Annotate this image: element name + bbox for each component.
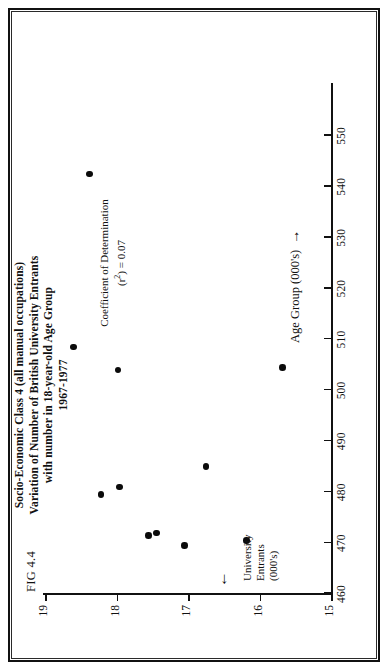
x-tick-label: 550 [335, 116, 347, 156]
x-tick-label: 510 [335, 320, 347, 360]
title-line-4: 1967-1977 [57, 175, 72, 595]
x-tick [324, 134, 331, 136]
y-axis-line [43, 593, 333, 595]
y-tick-label: 19 [37, 605, 49, 629]
y-axis-label: University Entrants (000's) [241, 535, 280, 581]
x-tick-label: 500 [335, 370, 347, 410]
y-axis-arrow-icon: ← [215, 571, 229, 587]
y-tick [45, 594, 47, 601]
scatter-point [86, 171, 93, 178]
scatter-point [145, 532, 152, 539]
x-tick-label: 480 [335, 472, 347, 512]
y-tick-label: 15 [323, 605, 335, 629]
x-tick-label: 490 [335, 421, 347, 461]
y-tick [260, 594, 262, 601]
figure-title: Socio-Economic Class 4 (all manual occup… [13, 175, 71, 595]
y-tick [331, 594, 333, 601]
scatter-point [115, 367, 122, 374]
y-tick [188, 594, 190, 601]
coefficient-annotation-line-1: Coefficient of Determination [97, 153, 111, 373]
y-tick [117, 594, 119, 601]
scanned-figure-page: Socio-Economic Class 4 (all manual occup… [0, 0, 390, 672]
scatter-point [98, 492, 105, 499]
x-axis-label: Age Group (000's)→ [287, 232, 303, 343]
x-axis-line [331, 83, 333, 595]
scatter-point [279, 364, 286, 371]
x-tick [324, 440, 331, 442]
x-tick-label: 460 [335, 574, 347, 614]
scatter-point [70, 344, 77, 351]
x-axis-label-text: Age Group (000's) [288, 250, 302, 343]
y-tick-label: 18 [109, 605, 121, 629]
x-tick [324, 542, 331, 544]
x-axis-arrow-icon: → [287, 232, 302, 250]
y-axis-label-line-3: (000's) [267, 535, 280, 581]
x-tick [324, 236, 331, 238]
scan-page-border: Socio-Economic Class 4 (all manual occup… [8, 8, 380, 662]
scatter-point [116, 484, 123, 491]
x-tick [324, 491, 331, 493]
r2-superscript: 2 [113, 275, 122, 279]
r2-value: ) = 0.07 [115, 240, 127, 275]
figure-canvas: Socio-Economic Class 4 (all manual occup… [19, 19, 390, 672]
scatter-point [181, 542, 188, 549]
scatter-point [243, 537, 250, 544]
title-line-3: with number in 18-year-old Age Group [42, 175, 57, 595]
y-tick-label: 17 [180, 605, 192, 629]
coefficient-annotation: Coefficient of Determination (r2) = 0.07 [97, 153, 128, 373]
title-line-1: Socio-Economic Class 4 (all manual occup… [13, 175, 28, 595]
coefficient-annotation-line-2: (r2) = 0.07 [111, 153, 128, 373]
x-tick [324, 593, 331, 595]
figure-number-label: FIG 4.4 [24, 512, 39, 592]
x-tick [324, 338, 331, 340]
scatter-point [153, 530, 160, 537]
x-tick-label: 530 [335, 218, 347, 258]
title-line-2: Variation of Number of British Universit… [28, 175, 43, 595]
x-tick-label: 470 [335, 523, 347, 563]
x-tick [324, 185, 331, 187]
x-tick-label: 520 [335, 269, 347, 309]
x-tick [324, 389, 331, 391]
scatter-point [203, 464, 210, 471]
x-tick [324, 287, 331, 289]
r2-prefix: (r [115, 279, 127, 286]
x-tick-label: 540 [335, 167, 347, 207]
y-tick-label: 16 [252, 605, 264, 629]
y-axis-label-line-2: Entrants [254, 535, 267, 581]
y-axis-label-line-1: University [241, 535, 254, 581]
